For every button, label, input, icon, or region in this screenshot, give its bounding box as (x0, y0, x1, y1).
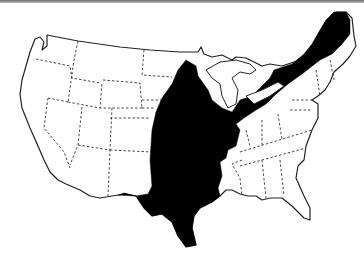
us-map (0, 0, 364, 261)
highlighted-region (118, 12, 350, 247)
